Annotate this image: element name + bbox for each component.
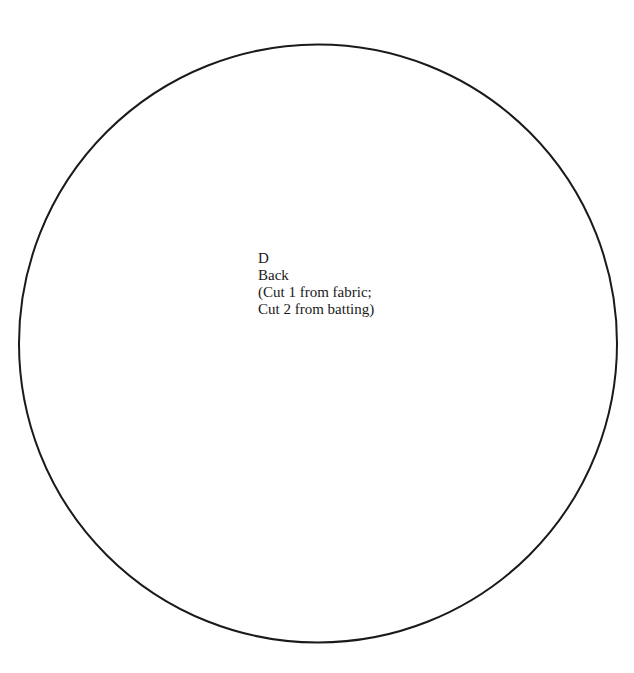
circle-outline bbox=[19, 45, 617, 643]
cut-instruction-batting: Cut 2 from batting) bbox=[258, 301, 374, 318]
piece-name: Back bbox=[258, 267, 374, 284]
cut-instruction-fabric: (Cut 1 from fabric; bbox=[258, 284, 374, 301]
pattern-piece-outline bbox=[0, 0, 634, 673]
piece-letter: D bbox=[258, 250, 374, 267]
pattern-piece-label: D Back (Cut 1 from fabric; Cut 2 from ba… bbox=[258, 250, 374, 318]
